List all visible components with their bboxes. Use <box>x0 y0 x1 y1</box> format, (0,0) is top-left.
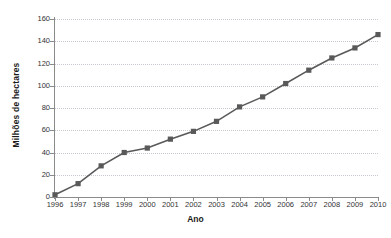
x-axis-tick-mark <box>378 197 379 201</box>
y-axis-tick-mark <box>50 64 55 65</box>
x-axis-tick-label: 2006 <box>277 201 294 209</box>
x-axis-tick-mark <box>193 197 194 201</box>
x-axis-tick-mark <box>286 197 287 201</box>
x-axis-tick-mark <box>170 197 171 201</box>
y-axis-tick-label: 120 <box>24 60 50 68</box>
x-axis-tick-mark <box>240 197 241 201</box>
grid-line <box>55 19 378 20</box>
x-axis-tick-mark <box>78 197 79 201</box>
x-axis-tick-label: 2000 <box>139 201 156 209</box>
x-axis-tick-mark <box>101 197 102 201</box>
y-axis-tick-mark <box>50 108 55 109</box>
x-axis-tick-label: 2002 <box>185 201 202 209</box>
x-axis-tick-label: 2009 <box>347 201 364 209</box>
x-axis-tick-label: 1998 <box>93 201 110 209</box>
y-axis-tick-mark <box>50 86 55 87</box>
y-axis-tick-label: 100 <box>24 82 50 90</box>
y-axis-tick-label: 20 <box>24 171 50 179</box>
grid-line <box>55 108 378 109</box>
x-axis-tick-mark <box>263 197 264 201</box>
y-axis-tick-mark <box>50 130 55 131</box>
y-axis-tick-label: 60 <box>24 127 50 135</box>
y-axis-tick-label: 140 <box>24 38 50 46</box>
x-axis-tick-label: 2005 <box>254 201 271 209</box>
grid-line <box>55 175 378 176</box>
y-axis-title-text: Milhões de hectares <box>11 62 21 147</box>
plot-area <box>55 19 378 197</box>
chart-container: Milhões de hectares 02040608010012014016… <box>0 0 391 238</box>
y-axis-tick-mark <box>50 175 55 176</box>
x-axis-tick-label: 2010 <box>370 201 387 209</box>
y-axis-tick-label: 40 <box>24 149 50 157</box>
grid-line <box>55 153 378 154</box>
y-axis-tick-mark <box>50 153 55 154</box>
y-axis-tick-label: 80 <box>24 104 50 112</box>
y-axis-tick-mark <box>50 41 55 42</box>
x-axis-tick-mark <box>147 197 148 201</box>
x-axis-tick-label: 2004 <box>231 201 248 209</box>
x-axis-tick-label: 1999 <box>116 201 133 209</box>
x-axis-tick-mark <box>55 197 56 201</box>
x-axis-tick-label: 2003 <box>208 201 225 209</box>
grid-line <box>55 86 378 87</box>
x-axis-title: Ano <box>0 214 391 224</box>
y-axis-tick-label: 160 <box>24 15 50 23</box>
x-axis-tick-label: 2008 <box>324 201 341 209</box>
grid-line <box>55 64 378 65</box>
x-axis-tick-mark <box>332 197 333 201</box>
grid-line <box>55 41 378 42</box>
x-axis-tick-label: 1997 <box>70 201 87 209</box>
x-axis-tick-label: 1996 <box>47 201 64 209</box>
x-axis-tick-mark <box>217 197 218 201</box>
x-axis-tick-label: 2001 <box>162 201 179 209</box>
x-axis-tick-label: 2007 <box>300 201 317 209</box>
grid-line <box>55 130 378 131</box>
x-axis-tick-mark <box>355 197 356 201</box>
x-axis-tick-mark <box>309 197 310 201</box>
y-axis-tick-mark <box>50 19 55 20</box>
x-axis-tick-mark <box>124 197 125 201</box>
